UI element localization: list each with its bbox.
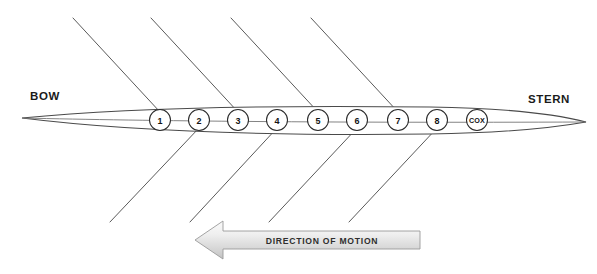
oar-lower-2 [110,128,199,222]
seat-label-3: 3 [235,116,240,126]
oar-lower-8 [349,128,437,222]
motion-arrow-label: DIRECTION OF MOTION [266,236,379,246]
oars-upper-group [73,18,398,112]
oar-upper-7 [311,18,398,112]
seat-6[interactable]: 6 [347,110,368,131]
seat-8[interactable]: 8 [427,110,448,131]
seat-label-8: 8 [434,116,439,126]
seat-1[interactable]: 1 [150,110,171,131]
oar-lower-4 [190,128,277,222]
seats-group: 1 2 3 4 5 6 7 [150,110,488,131]
seat-cox[interactable]: COX [467,110,488,131]
stern-label: STERN [528,93,570,105]
seat-label-7: 7 [395,116,400,126]
rowing-diagram: 1 2 3 4 5 6 7 [0,0,597,274]
oar-upper-5 [231,18,318,112]
seat-5[interactable]: 5 [308,110,329,131]
boat-hull-group [22,106,586,134]
seat-2[interactable]: 2 [189,110,210,131]
oar-upper-1 [73,18,160,112]
seat-label-5: 5 [315,116,320,126]
direction-of-motion-arrow: DIRECTION OF MOTION [195,221,420,259]
oar-upper-3 [151,18,238,112]
seat-7[interactable]: 7 [388,110,409,131]
seat-label-2: 2 [196,116,201,126]
seat-4[interactable]: 4 [267,110,288,131]
hull-outline [22,106,586,134]
oars-lower-group [110,128,437,222]
boat-diagram-svg: 1 2 3 4 5 6 7 [0,0,597,274]
oar-lower-6 [269,128,357,222]
seat-label-4: 4 [274,116,279,126]
seat-label-cox: COX [469,116,485,125]
seat-label-1: 1 [157,116,162,126]
bow-label: BOW [30,90,60,102]
seat-3[interactable]: 3 [228,110,249,131]
seat-label-6: 6 [354,116,359,126]
